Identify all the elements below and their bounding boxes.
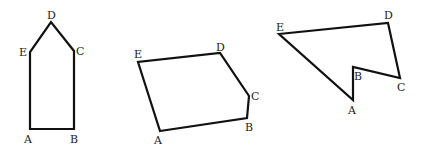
vertex-label-a: A: [23, 133, 33, 146]
shape-2: A B C D E: [134, 41, 259, 147]
vertex-label-b: B: [70, 133, 78, 146]
vertex-label-a: A: [347, 104, 357, 117]
vertex-label-c: C: [76, 45, 84, 58]
vertex-label-b: B: [245, 121, 253, 134]
vertex-label-c: C: [397, 81, 405, 94]
pentagon-concave: [279, 23, 400, 100]
vertex-label-a: A: [153, 134, 163, 147]
vertex-label-b: B: [354, 70, 362, 83]
vertex-label-e: E: [19, 46, 27, 59]
polygon-diagram: A B C D E A B C D E A B C D E: [0, 0, 422, 153]
pentagon-convex: [138, 53, 249, 131]
vertex-label-c: C: [251, 90, 259, 103]
vertex-label-d: D: [384, 9, 393, 22]
shape-1: A B C D E: [19, 9, 84, 146]
vertex-label-d: D: [216, 41, 225, 54]
shape-3: A B C D E: [276, 9, 405, 117]
vertex-label-d: D: [47, 9, 56, 22]
vertex-label-e: E: [276, 21, 284, 34]
vertex-label-e: E: [134, 48, 142, 61]
pentagon-house: [30, 22, 74, 129]
